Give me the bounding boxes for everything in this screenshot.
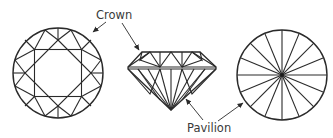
top-view: [13, 28, 103, 118]
pavilion-arrow-left: [186, 99, 203, 120]
crown-arrow-right: [122, 23, 139, 50]
diamond-diagram: [0, 0, 333, 138]
pavilion-arrow-right: [218, 103, 243, 121]
crown-arrow-left: [93, 22, 106, 32]
side-view: [128, 52, 216, 110]
crown-label: Crown: [96, 8, 132, 22]
pavilion-label: Pavilion: [187, 121, 231, 135]
bottom-view: [237, 30, 327, 120]
